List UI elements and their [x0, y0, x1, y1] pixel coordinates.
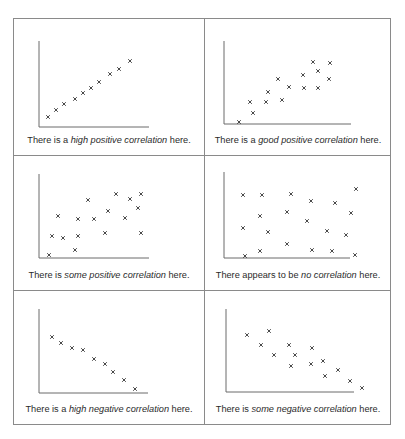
x-marker-icon: [47, 253, 51, 257]
x-marker-icon: [330, 249, 334, 253]
correlation-figure: There is a high positive correlation her…: [13, 18, 391, 425]
x-marker-icon: [76, 217, 80, 221]
x-marker-icon: [46, 115, 50, 119]
x-marker-icon: [108, 72, 112, 76]
x-marker-icon: [287, 343, 291, 347]
x-marker-icon: [316, 69, 320, 73]
x-marker-icon: [59, 341, 63, 345]
panel-high-negative: There is a high negative correlation her…: [14, 291, 204, 425]
x-marker-icon: [309, 362, 313, 366]
x-marker-icon: [111, 370, 115, 374]
x-marker-icon: [360, 386, 364, 390]
x-marker-icon: [289, 364, 293, 368]
x-marker-icon: [344, 233, 348, 237]
axes: [226, 309, 354, 392]
x-marker-icon: [122, 378, 126, 382]
caption: There is some positive correlation here.: [14, 270, 204, 280]
x-marker-icon: [305, 219, 309, 223]
x-marker-icon: [321, 359, 325, 363]
x-marker-icon: [285, 210, 289, 214]
x-marker-icon: [354, 187, 358, 191]
x-marker-icon: [128, 197, 132, 201]
x-marker-icon: [258, 214, 262, 218]
x-marker-icon: [333, 201, 337, 205]
caption: There is a good positive correlation her…: [204, 135, 392, 145]
x-marker-icon: [50, 234, 54, 238]
x-marker-icon: [70, 346, 74, 350]
x-marker-icon: [92, 357, 96, 361]
x-marker-icon: [272, 353, 276, 357]
x-marker-icon: [325, 229, 329, 233]
x-marker-icon: [245, 333, 249, 337]
axes: [39, 309, 148, 393]
x-marker-icon: [251, 111, 255, 115]
x-marker-icon: [349, 211, 353, 215]
x-marker-icon: [310, 346, 314, 350]
x-marker-icon: [103, 231, 107, 235]
axes: [39, 174, 149, 258]
x-marker-icon: [260, 193, 264, 197]
x-marker-icon: [241, 226, 245, 230]
x-marker-icon: [241, 193, 245, 197]
x-marker-icon: [285, 242, 289, 246]
x-marker-icon: [117, 67, 121, 71]
x-marker-icon: [301, 73, 305, 77]
x-marker-icon: [81, 348, 85, 352]
x-marker-icon: [81, 91, 85, 95]
x-marker-icon: [267, 329, 271, 333]
x-marker-icon: [56, 214, 60, 218]
x-marker-icon: [302, 86, 306, 90]
x-marker-icon: [259, 343, 263, 347]
x-marker-icon: [106, 209, 110, 213]
x-marker-icon: [243, 254, 247, 258]
x-marker-icon: [237, 120, 241, 124]
x-marker-icon: [123, 216, 127, 220]
x-marker-icon: [348, 379, 352, 383]
x-marker-icon: [316, 86, 320, 90]
caption: There appears to be no correlation here.: [204, 270, 392, 280]
caption: There is some negative correlation here.: [204, 404, 392, 414]
x-marker-icon: [309, 199, 313, 203]
x-marker-icon: [73, 248, 77, 252]
axes: [39, 41, 149, 127]
x-marker-icon: [266, 90, 270, 94]
x-marker-icon: [248, 100, 252, 104]
x-marker-icon: [136, 206, 140, 210]
x-marker-icon: [62, 102, 66, 106]
x-marker-icon: [97, 80, 101, 84]
x-marker-icon: [92, 217, 96, 221]
x-marker-icon: [311, 60, 315, 64]
axes: [224, 172, 350, 258]
x-marker-icon: [353, 253, 357, 257]
x-marker-icon: [73, 97, 77, 101]
x-marker-icon: [89, 86, 93, 90]
x-marker-icon: [287, 85, 291, 89]
axes: [224, 41, 351, 124]
x-marker-icon: [276, 77, 280, 81]
panel-some-positive: There is some positive correlation here.: [14, 156, 204, 290]
caption: There is a high negative correlation her…: [14, 404, 204, 414]
x-marker-icon: [293, 353, 297, 357]
x-marker-icon: [280, 98, 284, 102]
x-marker-icon: [76, 234, 80, 238]
panel-good-positive: There is a good positive correlation her…: [204, 19, 392, 155]
x-marker-icon: [328, 61, 332, 65]
caption: There is a high positive correlation her…: [14, 135, 204, 145]
x-marker-icon: [133, 387, 137, 391]
x-marker-icon: [266, 230, 270, 234]
x-marker-icon: [327, 77, 331, 81]
panel-some-negative: There is some negative correlation here.: [204, 291, 392, 425]
x-marker-icon: [264, 100, 268, 104]
x-marker-icon: [61, 236, 65, 240]
x-marker-icon: [114, 192, 118, 196]
x-marker-icon: [310, 248, 314, 252]
x-marker-icon: [103, 362, 107, 366]
x-marker-icon: [258, 249, 262, 253]
x-marker-icon: [139, 192, 143, 196]
panel-no-correlation: There appears to be no correlation here.: [204, 156, 392, 290]
x-marker-icon: [289, 192, 293, 196]
panel-high-positive: There is a high positive correlation her…: [14, 19, 204, 155]
x-marker-icon: [86, 198, 90, 202]
x-marker-icon: [139, 231, 143, 235]
x-marker-icon: [323, 374, 327, 378]
